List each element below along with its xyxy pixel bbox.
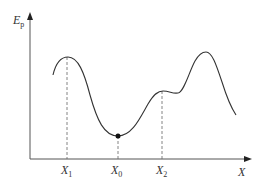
x-axis-arrow-icon [244, 156, 252, 162]
potential-energy-diagram [0, 0, 263, 184]
y-axis-label: Ep [13, 14, 24, 29]
y-axis-arrow-icon [27, 12, 33, 20]
tick-label-x1: X1 [61, 164, 72, 179]
energy-curve [53, 52, 236, 136]
tick-label-x0: X0 [111, 164, 122, 179]
minimum-point [116, 134, 121, 139]
tick-label-x2: X2 [156, 164, 167, 179]
x-axis-label: X [238, 166, 245, 178]
